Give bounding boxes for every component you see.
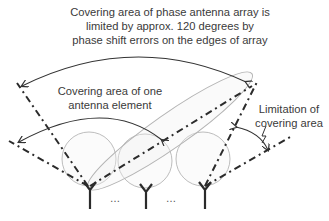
ellipsis-right: … (166, 193, 176, 204)
array-coverage-line-1: Covering area of phase antenna array is (40, 5, 300, 19)
limitation-arrow (236, 127, 268, 150)
array-coverage-line-2: limited by approx. 120 degrees by (40, 19, 300, 33)
limitation-line-1: Limitation of (248, 102, 329, 116)
element-coverage-label: Covering area of one antenna element (50, 84, 170, 112)
array-coverage-label: Covering area of phase antenna array is … (40, 5, 300, 47)
array-beam-lobe (78, 60, 261, 203)
ellipsis-left: … (110, 193, 120, 204)
limitation-line-2: covering area (248, 116, 329, 130)
limitation-label: Limitation of covering area (248, 102, 329, 130)
element-coverage-line-1: Covering area of one (50, 84, 170, 98)
array-coverage-line-3: phase shift errors on the edges of array (40, 33, 300, 47)
array-coverage-arrow (22, 57, 246, 86)
element-coverage-line-2: antenna element (50, 98, 170, 112)
